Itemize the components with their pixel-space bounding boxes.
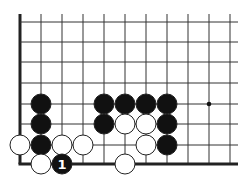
white-stone (10, 135, 30, 155)
white-stone (136, 114, 156, 134)
white-stone (73, 135, 93, 155)
board-grid (19, 14, 239, 164)
black-stone (157, 135, 177, 155)
black-stone (157, 94, 177, 114)
black-stone (31, 135, 51, 155)
white-stone (52, 135, 72, 155)
black-stone (136, 94, 156, 114)
move-number-label: 1 (57, 157, 66, 172)
black-stone (94, 94, 114, 114)
star-points (207, 102, 212, 107)
white-stone (136, 135, 156, 155)
white-stone (115, 114, 135, 134)
white-stone (31, 154, 51, 174)
black-stone (115, 94, 135, 114)
go-board: 1 (0, 0, 247, 187)
star-point-icon (207, 102, 212, 107)
stones: 1 (10, 94, 177, 174)
black-stone: 1 (52, 154, 72, 174)
black-stone (94, 114, 114, 134)
black-stone (31, 114, 51, 134)
black-stone (31, 94, 51, 114)
black-stone (157, 114, 177, 134)
white-stone (115, 154, 135, 174)
